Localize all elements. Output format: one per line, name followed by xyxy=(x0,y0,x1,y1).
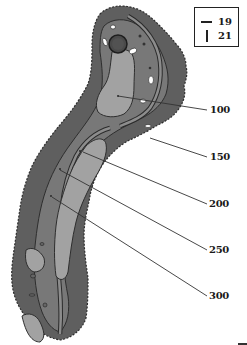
distance-label-300: 300 xyxy=(209,291,229,301)
bunker xyxy=(111,25,116,29)
marker-dot-100 xyxy=(117,95,119,97)
vertical-line-icon xyxy=(201,30,215,42)
pointer-line-200 xyxy=(83,152,207,204)
tree xyxy=(43,303,47,307)
distance-label-100: 100 xyxy=(210,105,230,115)
corner-mark xyxy=(238,343,247,345)
tree xyxy=(31,274,36,278)
legend-value: 19 xyxy=(218,16,232,28)
bunker xyxy=(145,125,151,128)
distance-label-250: 250 xyxy=(209,245,229,255)
tree xyxy=(40,243,44,246)
tree xyxy=(149,67,152,70)
tree xyxy=(139,35,142,38)
legend-box: 19 21 xyxy=(194,7,239,47)
tree xyxy=(29,294,35,296)
legend-item-horizontal: 19 xyxy=(201,16,235,28)
green-inner xyxy=(112,38,124,50)
legend-value: 21 xyxy=(218,30,232,42)
distance-label-200: 200 xyxy=(209,199,229,209)
marker-dot-250 xyxy=(59,168,61,170)
bunker xyxy=(149,76,154,84)
horizontal-line-icon xyxy=(201,16,215,28)
marker-dot-200 xyxy=(79,150,81,152)
legend-item-vertical: 21 xyxy=(201,30,235,42)
distance-label-150: 150 xyxy=(210,152,230,162)
tree xyxy=(143,43,146,46)
pointer-line-150 xyxy=(150,138,207,157)
marker-dot-300 xyxy=(50,195,52,197)
